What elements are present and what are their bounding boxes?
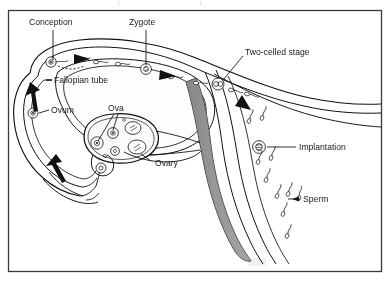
released-ovum: [96, 163, 106, 173]
two-celled-stage-marker: [212, 78, 224, 90]
label-ovum: Ovum: [51, 105, 74, 115]
label-ovary: Ovary: [155, 158, 179, 168]
leader-ovum: [39, 110, 49, 113]
diagram-canvas: Conception Zygote Two-celled stage Fallo…: [0, 0, 390, 284]
label-fallopian-tube: Fallopian tube: [54, 75, 108, 85]
sperm-ascending: [247, 106, 304, 239]
leader-two-celled: [223, 56, 243, 80]
zygote-marker: [141, 64, 152, 75]
label-two-celled-stage: Two-celled stage: [245, 47, 310, 57]
leader-sperm-arrow: [292, 197, 299, 202]
conception-marker: [46, 57, 68, 67]
label-conception: Conception: [29, 17, 73, 27]
arrow-down-right: [235, 95, 251, 110]
implantation-marker: [253, 141, 266, 154]
label-sperm: Sperm: [303, 194, 328, 204]
label-ova: Ova: [108, 103, 124, 113]
fimbria-fringe-3: [83, 171, 96, 179]
label-zygote: Zygote: [129, 17, 155, 27]
fertilization-diagram: Conception Zygote Two-celled stage Fallo…: [0, 0, 390, 284]
fimbria-fringe-1: [80, 186, 96, 196]
label-implantation: Implantation: [299, 142, 346, 152]
